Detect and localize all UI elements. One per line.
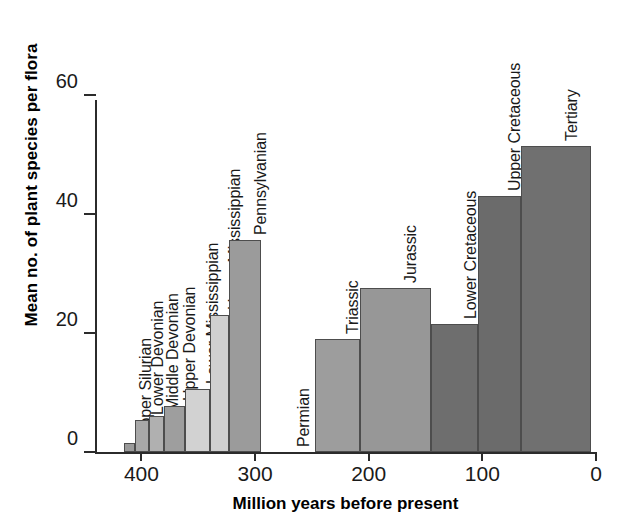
- bar[interactable]: [149, 416, 164, 452]
- bar[interactable]: [315, 339, 359, 452]
- bar[interactable]: [478, 196, 521, 452]
- bar-label: Lower Cretaceous: [462, 191, 480, 319]
- bar-label: Jurassic: [402, 225, 420, 283]
- x-axis-tick-label: 200: [334, 462, 404, 486]
- x-axis-tick: [481, 452, 483, 461]
- x-axis-tick: [368, 452, 370, 461]
- plot-area: Upper SilurianLower DevonianMiddle Devon…: [96, 95, 596, 452]
- x-axis-tick: [140, 452, 142, 461]
- y-axis-tick: [84, 94, 96, 96]
- bar[interactable]: [164, 406, 184, 452]
- bar-label: Permian: [295, 388, 313, 447]
- y-axis-tick-label: 40: [32, 189, 78, 212]
- bar[interactable]: [521, 146, 591, 452]
- bar[interactable]: [229, 240, 261, 452]
- bar-label: Tertiary: [563, 89, 581, 141]
- y-axis-tick-label: 0: [32, 427, 78, 450]
- bar-label: Middle Devonian: [164, 294, 182, 412]
- y-axis-tick: [84, 332, 96, 334]
- bar-label: Pennsylvanian: [252, 132, 270, 235]
- y-axis-tick-label: 20: [32, 308, 78, 331]
- bar-label: Upper Devonian: [181, 287, 199, 401]
- bar[interactable]: [210, 315, 229, 452]
- x-axis-tick-label: 100: [447, 462, 517, 486]
- x-axis-tick-label: 300: [220, 462, 290, 486]
- x-axis-tick: [595, 452, 597, 461]
- bars-layer: Upper SilurianLower DevonianMiddle Devon…: [96, 95, 596, 452]
- bar[interactable]: [185, 389, 210, 452]
- bar[interactable]: [431, 324, 478, 452]
- y-axis-tick-label: 60: [32, 70, 78, 93]
- x-axis-tick-label: 400: [106, 462, 176, 486]
- x-axis-title: Million years before present: [95, 494, 596, 514]
- bar[interactable]: [135, 420, 150, 452]
- bar[interactable]: [360, 288, 432, 452]
- chart-figure: Mean no. of plant species per flora 0204…: [0, 0, 632, 530]
- x-axis-tick-label: 0: [561, 462, 631, 486]
- bar[interactable]: [124, 443, 134, 452]
- x-axis-tick: [254, 452, 256, 461]
- x-axis-line: [95, 452, 596, 454]
- y-axis-tick: [84, 213, 96, 215]
